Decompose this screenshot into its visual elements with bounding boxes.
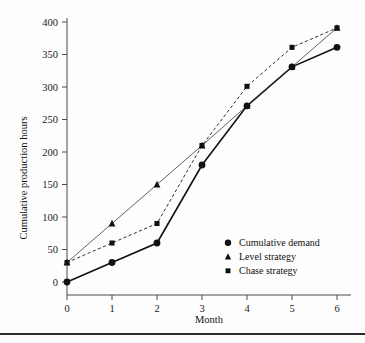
x-tick-label: 5 [289, 303, 294, 314]
data-point-square [244, 84, 249, 89]
data-point-square [289, 45, 294, 50]
y-axis-title: Cumulative production hours [18, 116, 29, 239]
data-point-circle [199, 162, 206, 169]
legend-label: Chase strategy [239, 265, 298, 276]
x-tick-label: 2 [154, 303, 159, 314]
legend-marker-triangle [225, 253, 231, 259]
y-tick-label: 100 [42, 212, 58, 223]
data-point-square [109, 240, 114, 245]
data-point-square [64, 260, 69, 265]
y-axis-group: 050100150200250300350400 Cumulative prod… [18, 17, 67, 295]
x-tick-label: 0 [64, 303, 69, 314]
legend-label: Level strategy [239, 251, 296, 262]
data-point-circle [334, 44, 341, 51]
data-point-square [334, 25, 339, 30]
y-tick-label: 400 [42, 17, 58, 28]
legend-marker-square [226, 268, 231, 273]
y-tick-label: 300 [42, 82, 58, 93]
data-point-circle [64, 279, 71, 286]
data-point-square [154, 221, 159, 226]
series-markers-cumulative-demand [64, 44, 341, 285]
y-tick-label: 250 [42, 114, 58, 125]
chart-legend: Cumulative demandLevel strategyChase str… [225, 237, 320, 276]
figure-bottom-rule [0, 333, 365, 335]
y-tick-label: 0 [53, 277, 58, 288]
x-axis-title: Month [195, 314, 224, 325]
x-tick-label: 3 [199, 303, 204, 314]
x-axis-group: 0123456 Month [64, 295, 351, 325]
x-tick-group: 0123456 [64, 295, 339, 314]
data-point-triangle [154, 181, 161, 188]
line-chart: 050100150200250300350400 Cumulative prod… [0, 0, 365, 343]
x-tick-label: 4 [244, 303, 250, 314]
data-point-circle [109, 259, 116, 266]
data-point-triangle [109, 220, 116, 227]
y-tick-label: 200 [42, 147, 58, 158]
legend-marker-circle [225, 240, 231, 246]
data-point-square [199, 143, 204, 148]
x-tick-label: 1 [109, 303, 114, 314]
legend-label: Cumulative demand [239, 237, 320, 248]
x-tick-label: 6 [334, 303, 339, 314]
y-tick-label: 150 [42, 179, 58, 190]
y-tick-label: 50 [48, 244, 59, 255]
y-tick-group: 050100150200250300350400 [42, 17, 67, 288]
figure-container: 050100150200250300350400 Cumulative prod… [0, 0, 365, 343]
data-point-circle [154, 240, 161, 247]
y-tick-label: 350 [42, 49, 58, 60]
